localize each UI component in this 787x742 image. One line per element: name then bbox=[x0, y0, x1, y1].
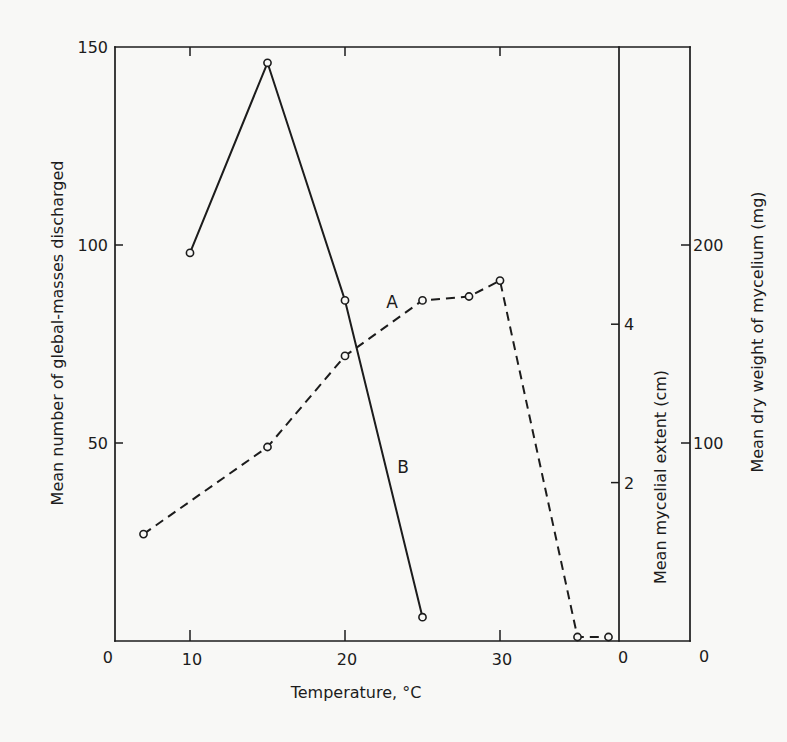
series-a-line bbox=[144, 281, 609, 637]
dry-weight-axis-title: Mean dry weight of mycelium (mg) bbox=[748, 191, 767, 472]
open-circle-marker bbox=[496, 277, 503, 284]
left-y-axis-title: Mean number of glebal-masses discharged bbox=[48, 161, 67, 506]
y-tick-label: 50 bbox=[88, 434, 108, 453]
open-circle-marker bbox=[574, 633, 581, 640]
series-b-label: B bbox=[397, 457, 409, 477]
y-tick-label: 100 bbox=[77, 236, 108, 255]
mycelial-extent-tick-label: 2 bbox=[624, 474, 634, 493]
open-circle-marker bbox=[140, 531, 147, 538]
open-circle-marker bbox=[264, 59, 271, 66]
open-circle-marker bbox=[419, 297, 426, 304]
mycelial-extent-tick-label: 0 bbox=[618, 648, 628, 667]
series-b bbox=[186, 59, 426, 621]
x-tick-label: 30 bbox=[492, 650, 512, 669]
axis-ticks: 1020300501001500240100200 bbox=[77, 38, 723, 669]
open-circle-marker bbox=[465, 293, 472, 300]
open-circle-marker bbox=[341, 297, 348, 304]
y-tick-label: 0 bbox=[103, 648, 113, 667]
series-b-line bbox=[190, 63, 423, 617]
figure-page: 1020300501001500240100200 A B Temperatur… bbox=[0, 0, 787, 742]
dry-weight-tick-label: 100 bbox=[693, 434, 724, 453]
dry-weight-tick-label: 200 bbox=[693, 236, 724, 255]
open-circle-marker bbox=[605, 633, 612, 640]
dry-weight-tick-label: 0 bbox=[699, 647, 709, 666]
series-a bbox=[140, 277, 612, 641]
series-a-label: A bbox=[386, 292, 398, 312]
x-axis-title: Temperature, °C bbox=[290, 683, 422, 702]
x-tick-label: 20 bbox=[337, 650, 357, 669]
open-circle-marker bbox=[341, 352, 348, 359]
mycelial-extent-axis-title: Mean mycelial extent (cm) bbox=[651, 370, 670, 584]
y-tick-label: 150 bbox=[77, 38, 108, 57]
line-chart: 1020300501001500240100200 A B Temperatur… bbox=[0, 0, 787, 742]
mycelial-extent-tick-label: 4 bbox=[624, 315, 634, 334]
data-series bbox=[140, 59, 612, 640]
open-circle-marker bbox=[264, 443, 271, 450]
x-tick-label: 10 bbox=[182, 650, 202, 669]
axes-frame bbox=[115, 47, 690, 641]
open-circle-marker bbox=[186, 249, 193, 256]
open-circle-marker bbox=[419, 614, 426, 621]
